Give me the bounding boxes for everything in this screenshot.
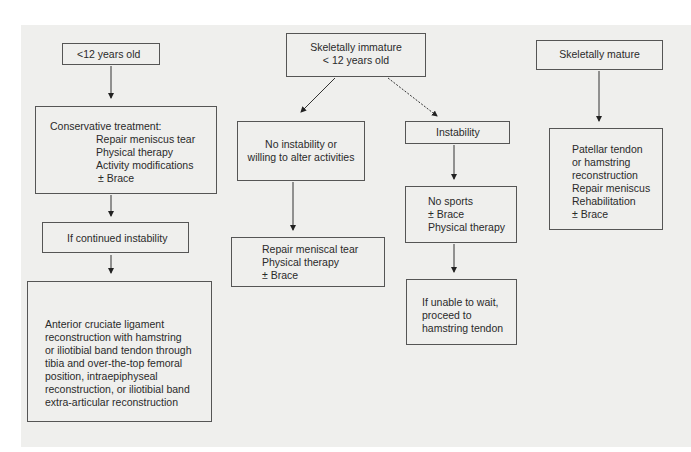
node-continued-instability: If continued instability — [42, 222, 189, 253]
node-unable-to-wait: If unable to wait, proceed to hamstring … — [406, 279, 517, 345]
node-line: ± Brace — [572, 208, 662, 221]
node-under-12: <12 years old — [62, 43, 160, 65]
node-line: Patellar tendon — [572, 143, 662, 156]
node-line: Anterior cruciate ligament — [45, 318, 211, 331]
node-item: ± Brace — [50, 172, 216, 185]
node-mature-treatment: Patellar tendon or hamstring reconstruct… — [549, 128, 663, 230]
node-line: position, intraepiphyseal — [45, 370, 211, 383]
node-line: No sports — [428, 195, 516, 208]
node-line: hamstring tendon — [422, 322, 516, 335]
node-line: If unable to wait, — [422, 296, 516, 309]
node-item: Activity modifications — [50, 159, 216, 172]
node-line: Rehabilitation — [572, 195, 662, 208]
node-line: or hamstring — [572, 156, 662, 169]
node-line: Physical therapy — [262, 256, 384, 269]
node-line: ± Brace — [262, 269, 384, 282]
node-line: < 12 years old — [287, 54, 425, 67]
node-instability: Instability — [405, 121, 510, 144]
node-no-sports: No sports ± Brace Physical therapy — [405, 186, 517, 243]
node-title: Conservative treatment: — [50, 120, 216, 133]
node-line: Skeletally immature — [287, 41, 425, 54]
node-line: Physical therapy — [428, 221, 516, 234]
node-line: or iliotibial band tendon through — [45, 344, 211, 357]
node-item: Physical therapy — [50, 146, 216, 159]
node-label: Skeletally mature — [537, 48, 662, 61]
node-line: tibia and over-the-top femoral — [45, 357, 211, 370]
node-conservative-treatment: Conservative treatment: Repair meniscus … — [35, 106, 217, 194]
node-line: reconstruction, or iliotibial band — [45, 383, 211, 396]
node-line: Repair meniscal tear — [262, 243, 384, 256]
node-label: If continued instability — [67, 232, 188, 245]
node-line: willing to alter activities — [238, 151, 364, 164]
node-line: reconstruction — [572, 169, 662, 182]
node-line: Repair meniscus — [572, 182, 662, 195]
node-label: <12 years old — [77, 48, 159, 61]
node-repair-meniscal: Repair meniscal tear Physical therapy ± … — [231, 237, 385, 287]
node-label: Instability — [436, 126, 509, 139]
node-line: ± Brace — [428, 208, 516, 221]
node-item: Repair meniscus tear — [50, 133, 216, 146]
node-line: extra-articular reconstruction — [45, 396, 211, 409]
node-acl-reconstruction: Anterior cruciate ligament reconstructio… — [27, 281, 212, 422]
node-skeletally-mature: Skeletally mature — [536, 40, 663, 70]
node-line: No instability or — [238, 138, 364, 151]
node-skeletally-immature: Skeletally immature < 12 years old — [286, 33, 426, 77]
node-no-instability: No instability or willing to alter activ… — [237, 121, 365, 181]
node-line: proceed to — [422, 309, 516, 322]
node-line: reconstruction with hamstring — [45, 331, 211, 344]
